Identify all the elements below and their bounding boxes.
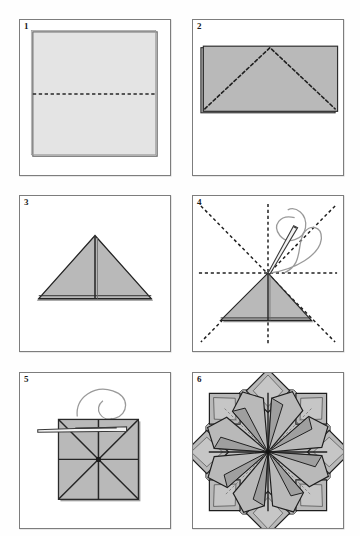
panel-step-1: 1 — [19, 19, 171, 176]
panel-number-1: 1 — [24, 21, 29, 32]
panel-step-2: 2 — [192, 19, 344, 176]
star-rosette — [193, 373, 343, 528]
panel-step-5: 5 — [19, 372, 171, 529]
panel-number-4: 4 — [197, 197, 202, 208]
rosette-centre — [266, 450, 271, 455]
panel-4-figure — [193, 196, 343, 351]
panel-number-2: 2 — [197, 21, 202, 32]
panel-number-5: 5 — [24, 374, 29, 385]
panel-6-figure — [193, 373, 343, 528]
instruction-sheet: 1 2 3 — [0, 0, 360, 536]
thread-loop-upper — [77, 389, 125, 419]
panel-step-3: 3 — [19, 195, 171, 352]
panel-3-figure — [20, 196, 170, 351]
panel-number-3: 3 — [24, 197, 29, 208]
panel-number-6: 6 — [197, 374, 202, 385]
centre-point — [96, 457, 101, 462]
panel-5-figure — [20, 373, 170, 528]
paper-front-layer — [203, 46, 337, 111]
panel-step-4: 4 — [192, 195, 344, 352]
panel-2-figure — [193, 20, 343, 175]
thread-loop-lower — [270, 227, 321, 273]
waterbomb-triangle — [221, 273, 312, 320]
needle — [38, 427, 127, 432]
thread — [270, 209, 321, 273]
panel-1-figure — [20, 20, 170, 175]
panel-step-6: 6 — [192, 372, 344, 529]
